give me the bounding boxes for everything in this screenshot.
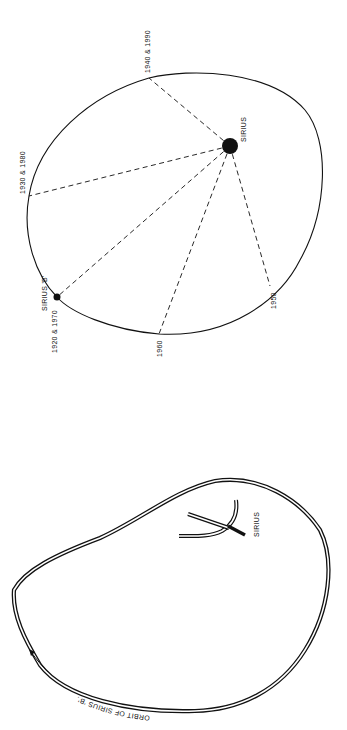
sirius-b-star-dot [54,294,61,301]
radius-1920-1970 [57,146,230,297]
label-1930-1980: 1930 & 1980 [19,151,26,194]
sirius-b-label: SIRIUS 'B' [41,275,48,311]
label-1950: 1950 [270,292,277,309]
radius-1940-1990 [149,78,230,146]
elliptical-orbit [27,73,322,334]
sirius-label: SIRIUS [240,117,247,142]
bottom-orbit-diagram: SIRIUS ORBIT OF SIRIUS 'B'. [14,480,329,722]
label-1940-1990: 1940 & 1990 [144,30,151,73]
dashed-radius-lines [29,78,270,334]
radius-1960 [159,146,230,334]
sirius-star-dot [222,138,238,154]
sirius-y-glyph [179,500,245,536]
sirius-label-bottom: SIRIUS [253,512,260,537]
label-1920-1970: 1920 & 1970 [51,310,58,353]
double-line-orbit [14,480,329,711]
sirius-orbit-figure: SIRIUS 1940 & 1990 1930 & 1980 SIRIUS 'B… [0,0,347,730]
label-1960: 1960 [156,340,163,357]
radius-1950 [230,146,270,286]
top-orbit-diagram: SIRIUS 1940 & 1990 1930 & 1980 SIRIUS 'B… [19,30,322,357]
radius-1930-1980 [29,146,230,196]
